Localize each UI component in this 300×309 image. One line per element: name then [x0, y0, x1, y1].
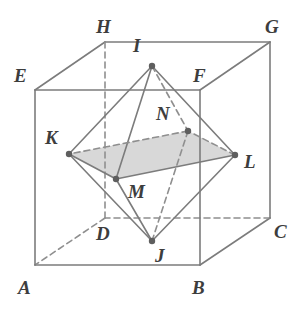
octahedron-vertex-label-J: J — [155, 246, 165, 265]
vertex-dot-N — [185, 128, 191, 134]
octahedron-vertex-label-M: M — [128, 182, 145, 201]
vertex-dot-I — [149, 63, 155, 69]
cube-edge-DA — [35, 218, 105, 265]
cube-vertex-label-E: E — [14, 66, 27, 85]
cube-vertex-label-G: G — [265, 17, 279, 36]
octahedron-vertex-label-N: N — [156, 104, 170, 123]
cube-edge-FG — [200, 42, 270, 90]
cube-vertex-label-F: F — [193, 66, 206, 85]
vertex-dot-L — [232, 152, 238, 158]
cube-vertex-label-H: H — [96, 17, 111, 36]
cube-vertex-label-D: D — [96, 224, 110, 243]
octahedron-vertex-label-L: L — [244, 152, 256, 171]
octahedron-vertex-label-K: K — [45, 128, 58, 147]
cube-edge-HE — [35, 42, 105, 90]
octahedron-vertex-label-I: I — [133, 36, 140, 55]
cube-vertex-label-B: B — [192, 278, 205, 297]
cube-vertex-label-A: A — [18, 278, 31, 297]
vertex-dot-J — [149, 238, 155, 244]
vertex-dot-K — [66, 151, 72, 157]
geometry-figure: ABCDEFGHIJKLMN — [0, 0, 300, 309]
cube-vertex-label-C: C — [274, 222, 287, 241]
vertex-dot-M — [113, 176, 119, 182]
cube-edge-BC — [200, 218, 270, 265]
